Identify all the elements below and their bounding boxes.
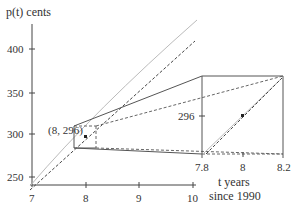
inset-x-tick-8: 8 <box>240 161 246 173</box>
x-axis-label-line2: since 1990 <box>209 189 261 203</box>
inset-point-marker <box>241 114 244 117</box>
x-tick-8: 8 <box>83 192 89 204</box>
x-tick-9: 9 <box>136 192 142 204</box>
y-ticks: 400 350 300 250 <box>7 43 35 183</box>
tangent-line <box>30 41 195 190</box>
y-tick-350: 350 <box>7 87 24 99</box>
inset-x-tick-8-2: 8.2 <box>277 161 291 173</box>
point-label: (8, 296) <box>48 124 83 137</box>
y-tick-250: 250 <box>7 171 24 183</box>
price-curve <box>30 20 197 186</box>
x-tick-7: 7 <box>29 192 35 204</box>
y-axis-label: p(t) cents <box>6 5 51 19</box>
inset-x-tick-7-8: 7.8 <box>195 161 209 173</box>
inset-y-tick-296: 296 <box>178 110 195 122</box>
y-tick-400: 400 <box>7 43 24 55</box>
chart: p(t) cents 400 350 300 250 7 8 9 10 (8, … <box>0 0 295 211</box>
x-tick-10: 10 <box>187 192 199 204</box>
point-marker <box>84 135 87 138</box>
x-axis-label-line1: t years <box>218 175 250 189</box>
y-tick-300: 300 <box>7 128 24 140</box>
